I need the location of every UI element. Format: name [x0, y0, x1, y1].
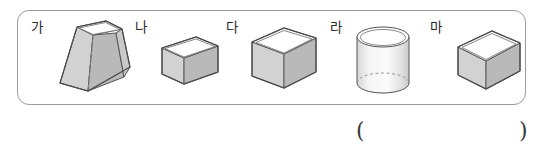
solid-item-na[interactable]: 나 — [128, 11, 222, 106]
solid-item-ma[interactable]: 마 — [416, 11, 526, 106]
solid-label-ma: 마 — [430, 21, 442, 35]
answer-open-paren: ( — [356, 118, 365, 144]
solid-item-ra[interactable]: 라 — [322, 11, 418, 106]
answer-close-paren: ) — [519, 118, 528, 144]
solid-item-da[interactable]: 다 — [216, 11, 324, 106]
solids-panel: 가 나 — [17, 10, 526, 105]
rectangular-box-wide-figure — [454, 27, 528, 95]
solid-label-da: 다 — [226, 21, 238, 35]
solid-item-ga[interactable]: 가 — [26, 11, 134, 106]
solid-label-na: 나 — [135, 21, 147, 35]
solid-label-ga: 가 — [31, 21, 43, 35]
answer-blank[interactable]: ( ) — [352, 118, 530, 146]
cube-figure — [248, 24, 324, 94]
cylinder-figure — [352, 25, 414, 97]
square-frustum-figure — [52, 17, 134, 95]
rectangular-box-small-figure — [158, 32, 224, 90]
solid-label-ra: 라 — [330, 21, 342, 35]
